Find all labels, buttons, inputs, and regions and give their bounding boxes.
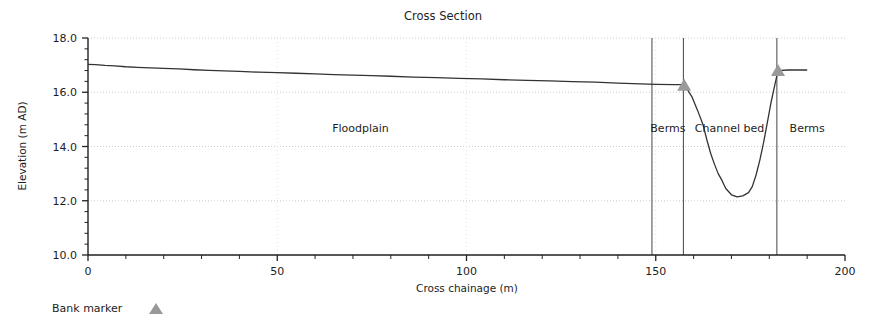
annotation-floodplain: Floodplain: [332, 122, 389, 135]
chart-canvas: Cross Section 10.012.014.016.018.0050100…: [0, 0, 887, 326]
chart-title: Cross Section: [404, 9, 482, 23]
y-tick-label: 10.0: [53, 249, 78, 262]
y-tick-label: 16.0: [53, 86, 78, 99]
annotation-berms-left: Berms: [650, 122, 685, 135]
x-tick-label: 150: [645, 265, 666, 278]
x-axis-label: Cross chainage (m): [416, 282, 518, 294]
y-axis-label: Elevation (m AD): [16, 101, 28, 190]
x-tick-label: 50: [270, 265, 284, 278]
annotation-berms-right: Berms: [790, 122, 825, 135]
y-tick-label: 18.0: [53, 32, 78, 45]
cross-section-chart: Cross Section 10.012.014.016.018.0050100…: [0, 0, 887, 326]
chart-background: [0, 0, 887, 326]
x-tick-label: 200: [835, 265, 856, 278]
y-tick-label: 12.0: [53, 195, 78, 208]
x-tick-label: 100: [456, 265, 477, 278]
y-tick-label: 14.0: [53, 141, 78, 154]
legend-entry-label: Bank marker: [52, 302, 123, 315]
annotation-channel-bed: Channel bed: [695, 122, 764, 135]
x-tick-label: 0: [85, 265, 92, 278]
